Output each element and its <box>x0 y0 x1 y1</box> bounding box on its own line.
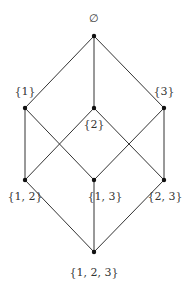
node-label-s1: {1} <box>15 85 36 98</box>
node-label-s2: {2} <box>84 118 105 131</box>
node-s2 <box>92 106 96 110</box>
node-label-empty: ∅ <box>89 12 99 25</box>
node-label-s123: {1, 2, 3} <box>70 266 119 279</box>
hasse-diagram: ∅{1}{2}{3}{1, 2}{1, 3}{2, 3}{1, 2, 3} <box>0 0 186 287</box>
edges-group <box>25 36 164 252</box>
node-s13 <box>92 178 96 182</box>
node-s12 <box>23 178 27 182</box>
node-s123 <box>92 250 96 254</box>
node-s3 <box>162 106 166 110</box>
node-label-s13: {1, 3} <box>88 190 123 203</box>
node-label-s3: {3} <box>154 85 175 98</box>
node-empty <box>92 34 96 38</box>
node-label-s23: {2, 3} <box>148 190 183 203</box>
labels-group: ∅{1}{2}{3}{1, 2}{1, 3}{2, 3}{1, 2, 3} <box>8 12 183 279</box>
node-s23 <box>162 178 166 182</box>
node-s1 <box>23 106 27 110</box>
node-label-s12: {1, 2} <box>8 190 43 203</box>
